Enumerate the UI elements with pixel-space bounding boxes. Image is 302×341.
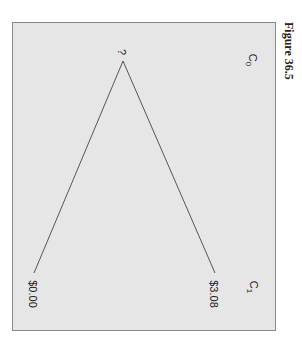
branch-up-line bbox=[123, 61, 215, 273]
binomial-tree: ? C0 C1 $3.08 $0.00 bbox=[0, 0, 302, 341]
time1-header-letter: C bbox=[248, 281, 260, 289]
branch-down-line bbox=[34, 61, 123, 273]
down-payoff-label: $0.00 bbox=[27, 280, 39, 308]
time0-header: C0 bbox=[244, 54, 259, 67]
time0-header-letter: C bbox=[247, 54, 259, 62]
time1-header: C1 bbox=[245, 281, 260, 294]
root-value-label: ? bbox=[116, 49, 128, 55]
time1-header-subscript: 1 bbox=[245, 289, 254, 294]
up-payoff-label: $3.08 bbox=[208, 280, 220, 308]
time0-header-subscript: 0 bbox=[244, 62, 253, 67]
